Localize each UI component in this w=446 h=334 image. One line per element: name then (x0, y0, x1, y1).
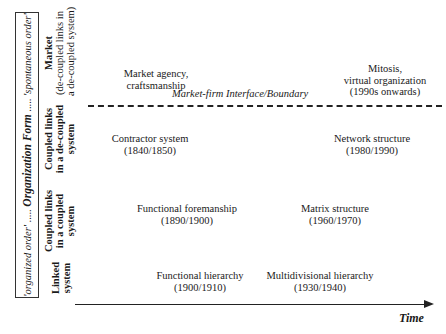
item-market-agency: Market agency, craftsmanship (108, 68, 204, 91)
row-label-market-line2: (de-coupled links in (54, 10, 65, 96)
item-multidivisional-hierarchy: Multidivisional hierarchy (1930/1940) (257, 270, 383, 293)
row-label-coupled-coupled-line2: in a coupled (54, 185, 65, 257)
item-functional-hierarchy: Functional hierarchy (1900/1910) (145, 270, 255, 293)
item-functional-foremanship: Functional foremanship (1890/1900) (125, 203, 249, 226)
item-contractor-system: Contractor system (1840/1850) (95, 133, 205, 156)
row-label-coupled-decoupled-line1: Coupled links (43, 100, 54, 178)
row-label-coupled-coupled: Coupled links in a coupled system (43, 185, 76, 257)
row-label-market-title: Market (43, 10, 54, 96)
item-matrix-structure-date: (1960/1970) (285, 215, 385, 227)
item-contractor-system-date: (1840/1850) (95, 145, 205, 157)
item-network-structure: Network structure (1980/1990) (322, 133, 422, 156)
item-functional-hierarchy-date: (1900/1910) (145, 282, 255, 294)
time-axis-arrowhead-icon (424, 300, 434, 308)
item-market-agency-line2: craftsmanship (108, 80, 204, 92)
row-label-linked: Linked system (50, 258, 72, 298)
item-mitosis-line2: virtual organization (330, 75, 440, 87)
row-label-coupled-decoupled: Coupled links in a de-coupled system (43, 100, 76, 178)
item-contractor-system-name: Contractor system (95, 133, 205, 145)
item-mitosis-date: (1990s onwards) (330, 86, 440, 98)
item-mitosis-line1: Mitosis, (330, 63, 440, 75)
dots-right: ..... (22, 96, 33, 114)
spontaneous-order-label: 'spontaneous order' (22, 13, 33, 96)
item-mitosis: Mitosis, virtual organization (1990s onw… (330, 63, 440, 98)
row-label-coupled-coupled-line1: Coupled links (43, 185, 54, 257)
time-axis-label: Time (399, 311, 424, 326)
item-matrix-structure-name: Matrix structure (285, 203, 385, 215)
row-label-linked-line2: system (61, 258, 72, 298)
item-network-structure-name: Network structure (322, 133, 422, 145)
item-market-agency-line1: Market agency, (108, 68, 204, 80)
market-firm-boundary-line (88, 105, 442, 107)
row-label-coupled-coupled-line3: system (65, 185, 76, 257)
organization-form-title: Organization Form (21, 114, 33, 206)
organized-order-label: 'organized order' (22, 225, 33, 297)
item-network-structure-date: (1980/1990) (322, 145, 422, 157)
item-functional-foremanship-name: Functional foremanship (125, 203, 249, 215)
item-functional-hierarchy-name: Functional hierarchy (145, 270, 255, 282)
time-axis-line (75, 304, 425, 305)
item-multidivisional-hierarchy-name: Multidivisional hierarchy (257, 270, 383, 282)
row-label-market: Market (de-coupled links in a de-coupled… (43, 10, 76, 96)
row-label-coupled-decoupled-line3: system (65, 100, 76, 178)
item-functional-foremanship-date: (1890/1900) (125, 215, 249, 227)
row-label-market-line3: a de-coupled system) (65, 10, 76, 96)
organization-form-axis-label: 'organized order' ..... Organization For… (18, 13, 37, 297)
row-label-coupled-decoupled-line2: in a de-coupled (54, 100, 65, 178)
item-matrix-structure: Matrix structure (1960/1970) (285, 203, 385, 226)
item-multidivisional-hierarchy-date: (1930/1940) (257, 282, 383, 294)
row-label-linked-line1: Linked (50, 258, 61, 298)
dots-left: ..... (22, 207, 33, 225)
